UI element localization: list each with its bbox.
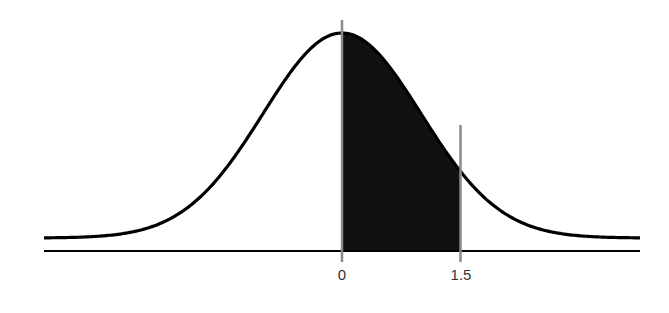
tick-label-zero: 0 (338, 266, 346, 283)
shaded-area (342, 33, 461, 251)
tick-label-one-point-five: 1.5 (451, 266, 472, 283)
normal-distribution-chart (0, 0, 669, 313)
